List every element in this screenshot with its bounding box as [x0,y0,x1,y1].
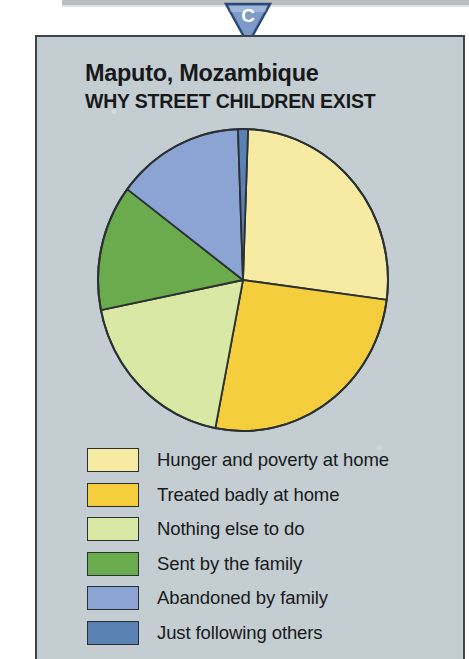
pie-slice [215,280,386,431]
legend-swatch [87,586,139,610]
legend-label: Just following others [157,622,323,644]
legend-label: Treated badly at home [157,484,339,506]
legend-item: Abandoned by family [87,581,447,616]
legend-swatch [87,621,139,645]
legend-swatch [87,517,139,541]
chart-subtitle: WHY STREET CHILDREN EXIST [85,90,375,113]
legend-label: Abandoned by family [157,587,328,609]
page-root: Mozambique Ministry of Health C Maputo, … [0,0,469,659]
legend-item: Just following others [87,616,447,651]
legend-item: Sent by the family [87,547,447,582]
legend-swatch [87,448,139,472]
legend-label: Hunger and poverty at home [157,449,389,471]
legend-label: Sent by the family [157,553,302,575]
marker-letter: C [224,5,272,27]
legend-swatch [87,483,139,507]
legend-item: Hunger and poverty at home [87,443,447,478]
pie-slice [243,129,388,300]
chart-legend: Hunger and poverty at homeTreated badly … [87,443,447,650]
legend-swatch [87,552,139,576]
pie-slice-group [98,129,388,431]
legend-item: Nothing else to do [87,512,447,547]
chart-panel: Maputo, Mozambique WHY STREET CHILDREN E… [35,35,465,659]
legend-item: Treated badly at home [87,478,447,513]
legend-label: Nothing else to do [157,518,304,540]
chart-title: Maputo, Mozambique [85,60,319,87]
pie-chart [97,125,397,435]
